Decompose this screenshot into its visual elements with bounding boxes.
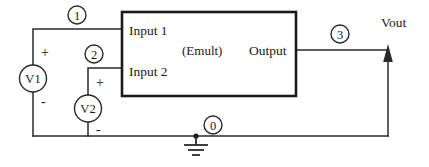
label-v1-minus: - [41,94,46,109]
label-node-3: 3 [337,28,343,42]
label-input-2: Input 2 [129,64,168,79]
wire-v2-to-input2 [88,68,122,95]
label-node-2: 2 [91,48,97,62]
label-node-0: 0 [210,119,216,133]
circuit-diagram-canvas: Input 1 Input 2 (Emult) Output Vout V1 V… [0,0,429,167]
label-v2: V2 [80,102,95,116]
label-node-1: 1 [74,9,80,23]
label-input-1: Input 1 [129,23,168,38]
label-v1-plus: + [41,45,49,60]
schematic-svg: Input 1 Input 2 (Emult) Output Vout V1 V… [0,0,429,167]
vout-arrow-head-icon [383,44,393,62]
label-output: Output [249,43,287,58]
label-emult: (Emult) [182,43,222,58]
label-v1: V1 [25,72,40,86]
label-vout: Vout [381,15,407,30]
label-v2-plus: + [96,75,104,90]
label-v2-minus: - [96,122,101,137]
